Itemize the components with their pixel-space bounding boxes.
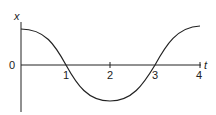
cosine-chart: x t 0 1 2 3 4 [0,0,216,115]
tick-label-3: 3 [152,69,158,81]
x-axis-label: t [204,59,208,71]
origin-label: 0 [9,59,15,71]
y-axis-label: x [13,10,20,22]
tick-label-4: 4 [196,69,202,81]
tick-label-1: 1 [63,69,69,81]
tick-label-2: 2 [107,69,113,81]
